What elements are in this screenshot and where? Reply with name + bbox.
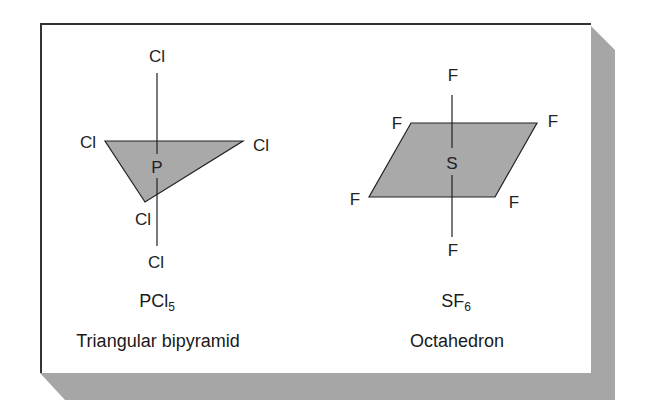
ligand-bottom: Cl <box>148 253 164 272</box>
ligand-bottom: F <box>448 241 458 260</box>
ligand-top: Cl <box>149 47 165 66</box>
atom-p: P <box>151 158 162 177</box>
pcl5-shape-name: Triangular bipyramid <box>76 331 239 351</box>
ligand-left: Cl <box>80 133 96 152</box>
ligand-back-right: F <box>548 112 558 131</box>
atom-s: S <box>446 154 457 173</box>
ligand-front: Cl <box>135 210 151 229</box>
ligand-right: Cl <box>253 136 269 155</box>
geometry-diagram: P Cl Cl Cl Cl Cl PCl5 Triangular bipyram… <box>0 0 645 416</box>
ligand-back-left: F <box>392 114 402 133</box>
ligand-top: F <box>448 66 458 85</box>
ligand-front-left: F <box>350 190 360 209</box>
ligand-front-right: F <box>509 193 519 212</box>
sf6-shape-name: Octahedron <box>410 331 504 351</box>
